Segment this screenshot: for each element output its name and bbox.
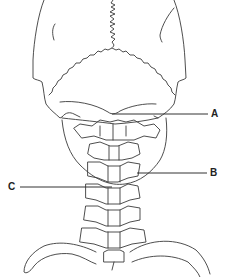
lambdoid-suture	[49, 48, 112, 95]
atlas	[74, 120, 160, 140]
occipital-protuberance	[60, 101, 156, 113]
label-a: A	[211, 109, 218, 119]
skull-outline	[33, 0, 80, 118]
label-b: B	[210, 168, 217, 178]
cervical-vertebrae	[80, 142, 146, 270]
left-clavicle	[24, 243, 96, 273]
sagittal-suture	[110, 0, 115, 47]
skull-spine-illustration	[0, 0, 232, 277]
mandible	[62, 118, 167, 184]
label-c: C	[8, 182, 15, 192]
right-clavicle	[130, 241, 210, 274]
